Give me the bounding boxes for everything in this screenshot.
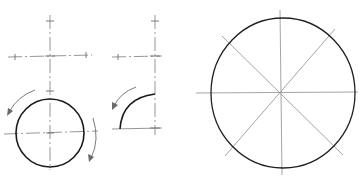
horizontal-guide-line [196,92,358,93]
quarter-arc [120,94,155,129]
arrowhead-icon [7,108,13,116]
arrow-counterclockwise-icon [9,90,35,112]
step-2-small-circle [4,90,98,167]
circle-drawing-diagram [0,0,362,181]
step-1-crosshair [8,15,92,170]
arrow-clockwise-icon [91,118,96,158]
arrowhead-icon [88,154,94,162]
step-4-large-circle [196,10,358,175]
step-3-quarter-arc [112,15,162,135]
diagonal-guide-line [222,36,343,155]
